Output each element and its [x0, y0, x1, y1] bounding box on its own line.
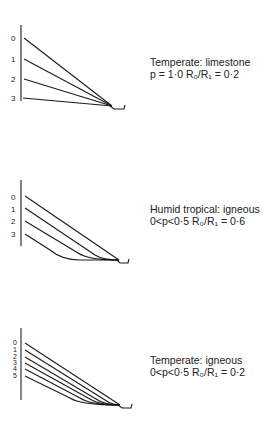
caption-params: 0<p<0·5 R₀/R₁ = 0·6	[150, 215, 260, 227]
curve-label: 0	[11, 193, 16, 202]
curve-label: 4	[13, 365, 17, 372]
panel-humid-tropical	[21, 180, 129, 263]
panel-temperate-igneous	[21, 328, 132, 408]
curve-label: 3	[11, 230, 16, 239]
caption-humid-tropical: Humid tropical: igneous 0<p<0·5 R₀/R₁ = …	[150, 203, 260, 227]
caption-params: p = 1·0 R₀/R₁ = 0·2	[150, 68, 250, 80]
panel-limestone	[21, 25, 125, 109]
curve-label: 2	[11, 75, 16, 84]
caption-params: 0<p<0·5 R₀/R₁ = 0·2	[150, 366, 245, 378]
curve-label: 0	[13, 339, 17, 346]
caption-limestone: Temperate: limestone p = 1·0 R₀/R₁ = 0·2	[150, 56, 250, 80]
caption-title: Humid tropical: igneous	[150, 203, 260, 215]
caption-title: Temperate: limestone	[150, 56, 250, 68]
curve-label: 0	[11, 34, 16, 43]
curve-label: 5	[13, 372, 17, 379]
curve-label: 3	[11, 94, 16, 103]
curve-label: 1	[11, 205, 16, 214]
caption-temperate-igneous: Temperate: igneous 0<p<0·5 R₀/R₁ = 0·2	[150, 354, 245, 378]
curve-label: 2	[11, 217, 16, 226]
caption-title: Temperate: igneous	[150, 354, 245, 366]
curve-label: 1	[13, 346, 17, 353]
curve-label: 1	[11, 55, 16, 64]
